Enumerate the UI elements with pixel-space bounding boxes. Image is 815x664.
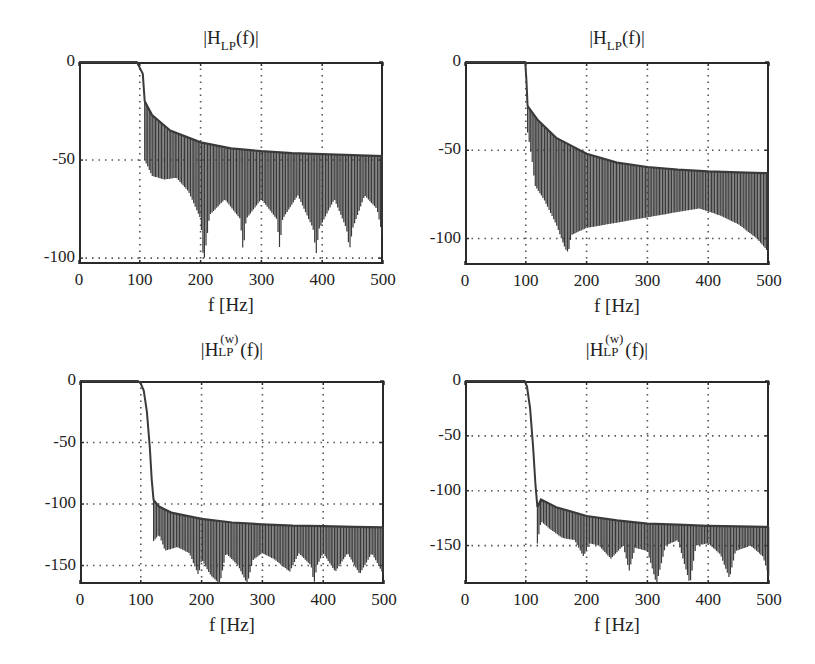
stopband-ripple xyxy=(145,101,382,258)
y-tick-label: -100 xyxy=(36,493,76,513)
x-tick-label: 300 xyxy=(241,270,281,290)
subplot-title: |HLP(f)| xyxy=(465,27,769,54)
x-tick-label: 100 xyxy=(506,590,546,610)
stopband-ripple xyxy=(154,500,384,583)
passband-curve xyxy=(80,381,154,500)
x-tick-label: 100 xyxy=(120,270,160,290)
passband-curve xyxy=(465,62,528,106)
plot-axes-bl xyxy=(80,381,384,584)
y-tick-label: 0 xyxy=(421,51,461,71)
x-axis-label: f [Hz] xyxy=(171,294,291,316)
x-tick-label: 500 xyxy=(363,270,403,290)
x-tick-label: 500 xyxy=(364,590,404,610)
passband-curve xyxy=(79,62,145,101)
y-tick-label: -100 xyxy=(35,247,75,267)
x-tick-label: 200 xyxy=(567,590,607,610)
x-tick-label: 500 xyxy=(749,271,789,291)
y-tick-label: -50 xyxy=(421,425,461,445)
x-tick-label: 0 xyxy=(445,590,485,610)
x-tick-label: 0 xyxy=(59,270,99,290)
x-tick-label: 400 xyxy=(688,590,728,610)
plot-canvas xyxy=(79,62,383,264)
x-axis-label: f [Hz] xyxy=(557,295,677,317)
y-tick-label: -50 xyxy=(35,149,75,169)
plot-axes-br xyxy=(465,381,769,584)
x-tick-label: 0 xyxy=(60,590,100,610)
plot-axes-tr xyxy=(465,62,769,265)
x-tick-label: 0 xyxy=(445,271,485,291)
x-axis-label: f [Hz] xyxy=(557,614,677,636)
subplot-title: |H(w)LP(f)| xyxy=(465,339,769,361)
subplot-title: |HLP(f)| xyxy=(79,27,383,54)
subplot-title: |H(w)LP(f)| xyxy=(80,339,384,361)
x-tick-label: 100 xyxy=(506,271,546,291)
y-tick-label: -50 xyxy=(36,432,76,452)
x-tick-label: 200 xyxy=(567,271,607,291)
x-tick-label: 300 xyxy=(627,590,667,610)
x-tick-label: 500 xyxy=(749,590,789,610)
passband-curve xyxy=(465,381,537,507)
x-tick-label: 400 xyxy=(688,271,728,291)
y-tick-label: 0 xyxy=(35,51,75,71)
y-tick-label: -50 xyxy=(421,139,461,159)
y-tick-label: -100 xyxy=(421,480,461,500)
plot-canvas xyxy=(80,381,384,584)
x-tick-label: 300 xyxy=(242,590,282,610)
plot-axes-tl xyxy=(79,62,383,264)
x-tick-label: 200 xyxy=(182,590,222,610)
x-tick-label: 400 xyxy=(302,270,342,290)
y-tick-label: -100 xyxy=(421,228,461,248)
x-tick-label: 400 xyxy=(303,590,343,610)
y-tick-label: 0 xyxy=(421,370,461,390)
x-axis-label: f [Hz] xyxy=(172,614,292,636)
plot-canvas xyxy=(465,62,769,265)
x-tick-label: 200 xyxy=(181,270,221,290)
plot-canvas xyxy=(465,381,769,584)
x-tick-label: 100 xyxy=(121,590,161,610)
y-tick-label: 0 xyxy=(36,370,76,390)
y-tick-label: -150 xyxy=(421,535,461,555)
x-tick-label: 300 xyxy=(627,271,667,291)
y-tick-label: -150 xyxy=(36,555,76,575)
